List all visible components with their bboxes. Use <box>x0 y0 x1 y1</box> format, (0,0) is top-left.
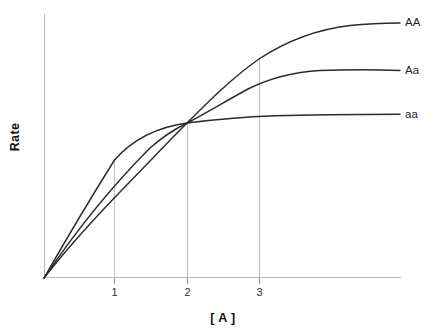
curve-aa <box>44 114 400 278</box>
x-tick-label-3: 3 <box>256 286 262 298</box>
x-tick-label-1: 1 <box>111 286 117 298</box>
y-axis-title: Rate <box>8 123 22 152</box>
series-label-Aa: Aa <box>405 64 420 76</box>
curve-AA <box>44 23 400 278</box>
series-label-AA: AA <box>405 16 421 28</box>
chart-plot-area: 1 2 3 AA Aa aa [ A ] Rate <box>0 0 433 331</box>
x-tick-label-2: 2 <box>184 286 190 298</box>
x-axis-title: [ A ] <box>210 311 235 325</box>
curve-Aa <box>44 70 400 278</box>
series-label-aa: aa <box>405 108 418 120</box>
enzyme-kinetics-chart: 1 2 3 AA Aa aa [ A ] Rate <box>0 0 433 331</box>
